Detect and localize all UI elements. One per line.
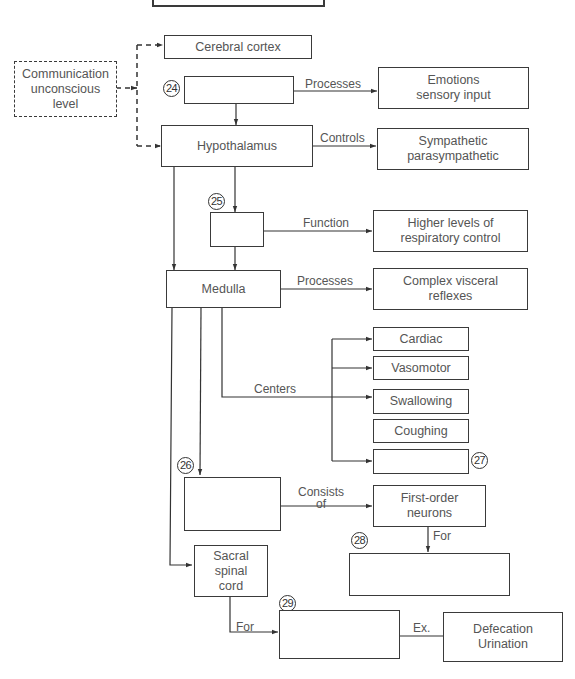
medulla-box: Medulla: [166, 270, 281, 308]
blank-26-box: [184, 477, 281, 531]
blank-24-box: [184, 76, 294, 104]
cerebral-cortex-box: Cerebral cortex: [164, 35, 312, 59]
number-27-badge: 27: [471, 452, 488, 469]
first-order-neurons-box: First-order neurons: [373, 485, 486, 527]
number-25-badge: 25: [208, 193, 225, 210]
sacral-spinal-cord-box: Sacral spinal cord: [194, 545, 268, 597]
edge-label-processes: Processes: [305, 78, 361, 91]
edge-label-consists-of: Consists of: [298, 486, 344, 510]
hypothalamus-box: Hypothalamus: [161, 125, 313, 167]
number-26-badge: 26: [177, 457, 194, 474]
emotions-sensory-input-box: Emotions sensory input: [378, 67, 529, 109]
sympathetic-parasympathetic-box: Sympathetic parasympathetic: [377, 128, 529, 170]
respiratory-control-box: Higher levels of respiratory control: [373, 210, 528, 252]
defecation-urination-box: Defecation Urination: [443, 612, 563, 662]
blank-27-box: [373, 449, 469, 474]
edge-label-ex: Ex.: [413, 622, 430, 635]
number-28-badge: 28: [351, 532, 368, 549]
edge-label-centers: Centers: [254, 383, 296, 396]
edge-label-controls: Controls: [320, 132, 365, 145]
swallowing-box: Swallowing: [373, 389, 469, 414]
blank-25-box: [210, 212, 264, 247]
vasomotor-box: Vasomotor: [373, 356, 469, 380]
edge-label-processes-2: Processes: [297, 275, 353, 288]
blank-29-box: [279, 610, 400, 659]
complex-visceral-reflexes-box: Complex visceral reflexes: [373, 268, 528, 310]
edge-label-function: Function: [303, 217, 349, 230]
communication-unconscious-box: Communication unconscious level: [14, 61, 117, 117]
edge-label-for-2: For: [236, 621, 254, 634]
blank-28-box: [349, 553, 510, 596]
number-24-badge: 24: [163, 80, 180, 97]
coughing-box: Coughing: [373, 419, 469, 443]
cardiac-box: Cardiac: [373, 327, 469, 351]
edge-label-for: For: [433, 530, 451, 543]
top-partial-box: [152, 0, 325, 7]
